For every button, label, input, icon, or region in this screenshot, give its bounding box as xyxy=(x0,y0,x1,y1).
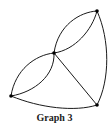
edge-c-d xyxy=(11,96,97,108)
edge-b-a-upper xyxy=(54,11,97,53)
graph-caption: Graph 3 xyxy=(0,112,109,123)
edge-c-b-lower xyxy=(11,53,54,96)
vertex-d xyxy=(95,103,99,107)
edge-a-d xyxy=(97,11,107,105)
graph-diagram xyxy=(0,0,109,127)
edge-b-d xyxy=(54,53,97,105)
edge-b-a-lower xyxy=(54,11,97,53)
vertex-c xyxy=(9,94,13,98)
vertex-b xyxy=(52,51,56,55)
vertex-a xyxy=(95,9,99,13)
